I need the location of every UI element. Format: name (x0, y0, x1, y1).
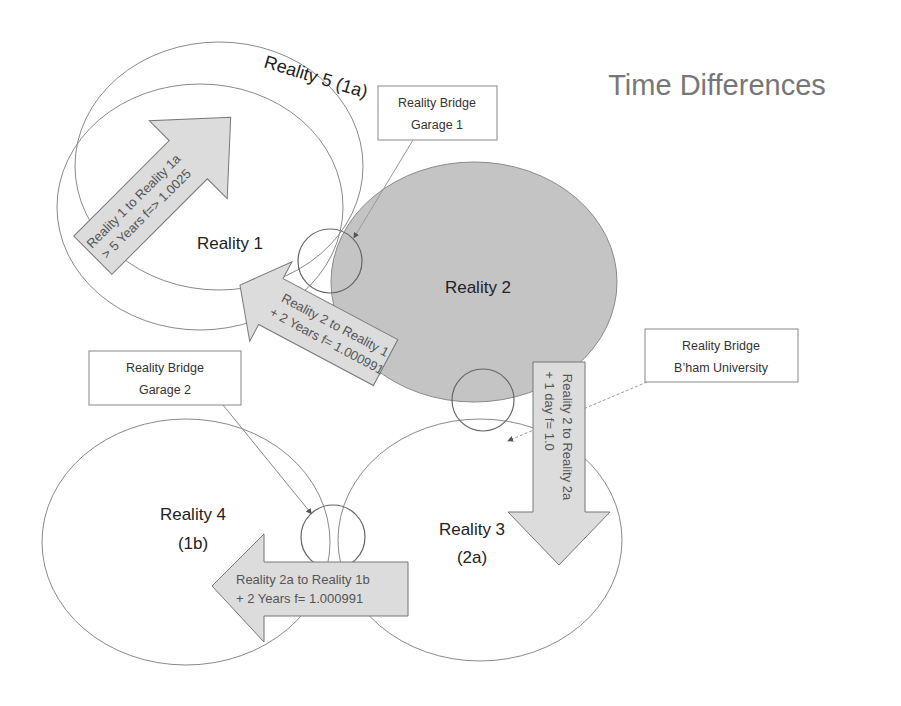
arrow-r2a-to-r1b-line2: + 2 Years f= 1.000991 (236, 591, 363, 606)
connector-garage-2 (223, 405, 310, 512)
reality-4-label-line2: (1b) (178, 534, 208, 553)
bridge-garage-1-line1: Reality Bridge (398, 96, 476, 110)
bridge-garage-2-line2: Garage 2 (139, 383, 191, 397)
diagram-canvas: Reality 1 to Reality 1a > 5 Years f=> 1.… (0, 0, 901, 706)
page-title: Time Differences (608, 69, 826, 101)
bridge-box-bham: Reality Bridge B’ham University (645, 329, 798, 382)
reality-5-label: Reality 5 (1a) (262, 52, 370, 102)
reality-4-label-line1: Reality 4 (160, 505, 226, 524)
reality-1-label: Reality 1 (197, 234, 263, 253)
arrow-r2a-to-r1b-line1: Reality 2a to Reality 1b (236, 572, 370, 587)
bridge-box-garage-1: Reality Bridge Garage 1 (378, 86, 497, 140)
arrow-r2-to-r2a-line2: + 1 day f= 1.0 (542, 371, 557, 451)
bridge-garage-1-line2: Garage 1 (411, 118, 463, 132)
reality-3-label-line2: (2a) (457, 548, 487, 567)
reality-2-label: Reality 2 (445, 278, 511, 297)
bridge-box-garage-2: Reality Bridge Garage 2 (89, 351, 241, 405)
bridge-bham-line1: Reality Bridge (682, 339, 760, 353)
bridge-bham-line2: B’ham University (674, 361, 769, 375)
reality-3-label-line1: Reality 3 (439, 520, 505, 539)
arrow-r1-to-r1a: Reality 1 to Reality 1a > 5 Years f=> 1.… (54, 78, 270, 294)
arrow-r2a-to-r1b: Reality 2a to Reality 1b + 2 Years f= 1.… (212, 534, 408, 642)
bridge-garage-2-circle (301, 505, 365, 569)
arrow-r2-to-r2a-line1: Reality 2 to Reality 2a (560, 374, 575, 501)
bridge-garage-2-line1: Reality Bridge (126, 361, 204, 375)
